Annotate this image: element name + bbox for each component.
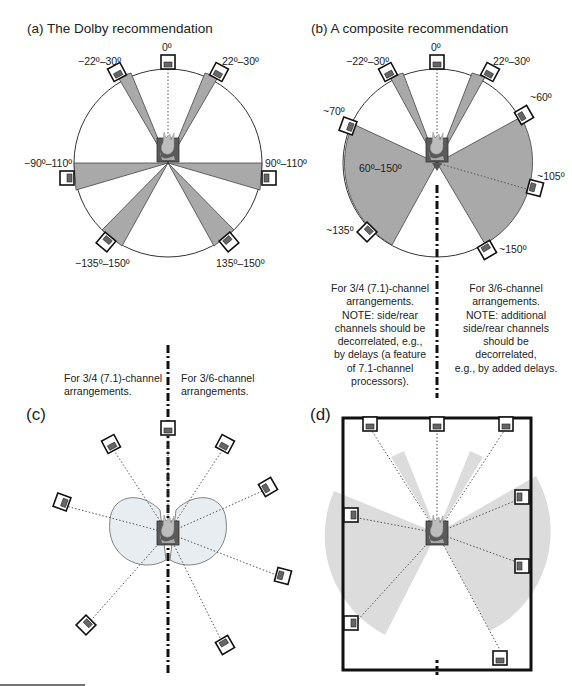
panel-d-diagram bbox=[325, 417, 551, 670]
label-b-60: ~60º bbox=[530, 91, 552, 103]
panel-c-letter: (c) bbox=[26, 405, 46, 425]
panel-b-diagram: 0º −22º–30º 22º–30º ~60º ~70º 60º–150º ~… bbox=[323, 41, 565, 260]
panel-b-note-left: For 3/4 (7.1)-channel arrangements. NOTE… bbox=[326, 282, 434, 388]
note-line: of 7.1-channel bbox=[326, 362, 434, 375]
note-line: arrangements. bbox=[181, 385, 281, 398]
note-line: channels should be bbox=[326, 322, 434, 335]
note-line: arrangements. bbox=[326, 295, 434, 308]
label-b-front-left: −22º–30º bbox=[346, 55, 389, 67]
panel-d-letter: (d) bbox=[310, 405, 331, 425]
note-line: For 3/4 (7.1)-channel bbox=[64, 372, 166, 385]
note-line: For 3/4 (7.1)-channel bbox=[326, 282, 434, 295]
note-line: decorrelated, e.g., bbox=[326, 335, 434, 348]
label-a-rear-left: −135º–150º bbox=[75, 257, 130, 269]
label-b-150: ~150º bbox=[499, 243, 527, 255]
note-line: decorrelated, bbox=[441, 348, 571, 361]
note-line: arrangements. bbox=[64, 385, 166, 398]
note-line: should be bbox=[441, 335, 571, 348]
panel-b-note-right: For 3/6-channel arrangements. NOTE: addi… bbox=[441, 282, 571, 375]
label-b-0: 0º bbox=[431, 41, 441, 53]
label-b-135: ~135º bbox=[326, 224, 354, 236]
note-line: For 3/6-channel bbox=[441, 282, 571, 295]
label-a-front-right: 22º–30º bbox=[222, 55, 259, 67]
note-line: For 3/6-channel bbox=[181, 372, 281, 385]
label-a-side-left: −90º–110º bbox=[24, 157, 72, 169]
panel-c-note-right: For 3/6-channel arrangements. bbox=[181, 372, 281, 399]
note-line: by delays (a feature bbox=[326, 348, 434, 361]
label-b-105: ~105º bbox=[537, 170, 565, 182]
note-line: processors). bbox=[326, 375, 434, 388]
label-a-front-left: −22º–30º bbox=[78, 55, 121, 67]
label-a-rear-right: 135º–150º bbox=[216, 257, 265, 269]
panel-c-diagram bbox=[53, 421, 292, 655]
label-a-0: 0º bbox=[162, 41, 172, 53]
label-b-60-150: 60º–150º bbox=[359, 162, 402, 174]
label-b-front-right: 22º–30º bbox=[493, 55, 530, 67]
label-b-70: ~70º bbox=[323, 105, 345, 117]
note-line: NOTE: additional bbox=[441, 309, 571, 322]
label-a-side-right: 90º–110º bbox=[265, 157, 307, 169]
note-line: e.g., by added delays. bbox=[441, 362, 571, 375]
note-line: NOTE: side/rear bbox=[326, 309, 434, 322]
panel-a-diagram: 0º −22º–30º 22º–30º −90º–110º 90º–110º −… bbox=[24, 41, 307, 269]
note-line: side/rear channels bbox=[441, 322, 571, 335]
panel-c-note-left: For 3/4 (7.1)-channel arrangements. bbox=[64, 372, 166, 399]
note-line: arrangements. bbox=[441, 295, 571, 308]
